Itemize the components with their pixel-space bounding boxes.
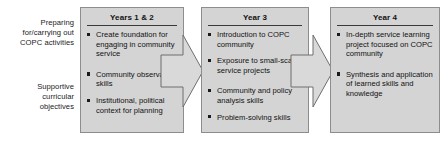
bullet-text: Problem-solving skills [217,113,290,122]
bullet-text: Exposure to small-scale service projects [217,56,298,75]
stage-title-year-3: Year 3 [202,8,308,22]
row-label-preparing-line-1: Preparing [2,18,74,28]
row-label-supportive-curricular-objectives: Supportive curricular objectives [2,82,74,113]
stage-title-year-4: Year 4 [331,8,439,22]
bullet-text: Introduction to COPC community [217,30,290,49]
row-label-preparing-line-3: COPC activities [2,38,74,48]
bullet-list-year-4: In-depth service learning project focuse… [331,26,439,99]
row-label-supportive-line-3: objectives [2,102,74,112]
bullet-square-icon [87,33,90,36]
bullet-text: Institutional, political context for pla… [96,96,164,115]
bullet-text: Synthesis and application of learned ski… [346,70,433,98]
row-label-supportive-line-1: Supportive [2,82,74,92]
bullet-square-icon [208,89,211,92]
copc-curriculum-progression-diagram: Preparing for/carrying out COPC activiti… [0,0,445,145]
list-item: Synthesis and application of learned ski… [337,70,435,99]
bullet-square-icon [208,33,211,36]
bullet-text: In-depth service learning project focuse… [346,30,433,58]
stage-title-years-1-and-2: Years 1 & 2 [81,8,183,22]
row-label-supportive-line-2: curricular [2,92,74,102]
arrow-years12-to-year3-icon [160,34,204,108]
row-label-preparing-line-2: for/carrying out [2,28,74,38]
bullet-square-icon [87,99,90,102]
row-label-preparing-for-copc-activities: Preparing for/carrying out COPC activiti… [2,18,74,49]
bullet-square-icon [337,72,340,75]
list-item: Problem-solving skills [208,113,304,123]
bullet-text: Community and policy analysis skills [217,86,292,105]
bullet-square-icon [208,59,211,62]
list-item: In-depth service learning project focuse… [337,30,435,59]
bullet-square-icon [208,115,211,118]
arrow-year3-to-year4-icon [290,34,334,108]
bullet-square-icon [87,72,90,75]
stage-box-year-4: Year 4 In-depth service learning project… [330,7,440,133]
bullet-square-icon [337,33,340,36]
